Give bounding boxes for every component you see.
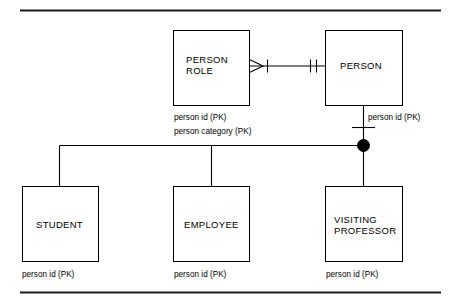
entity-visiting-professor-attribute-1: person id (PK) xyxy=(326,270,379,279)
entity-employee[interactable]: EMPLOYEE person id (PK) xyxy=(174,187,250,280)
entity-person-attribute-1: person id (PK) xyxy=(368,113,421,122)
entity-person-role-label-line1: PERSON xyxy=(186,54,228,65)
entity-employee-attribute-1: person id (PK) xyxy=(174,270,227,279)
entity-person-label: PERSON xyxy=(340,60,382,71)
relationship-person-role-to-person[interactable] xyxy=(250,60,326,73)
er-diagram-canvas: PERSON ROLE person id (PK) person catego… xyxy=(0,0,458,301)
entity-person-role[interactable]: PERSON ROLE person id (PK) person catego… xyxy=(174,31,252,137)
entity-person-role-label-line2: ROLE xyxy=(186,65,213,76)
entity-visiting-professor-label-line2: PROFESSOR xyxy=(334,225,396,236)
entity-student-attribute-1: person id (PK) xyxy=(22,270,75,279)
entity-person-role-attribute-1: person id (PK) xyxy=(174,113,227,122)
entity-visiting-professor[interactable]: VISITING PROFESSOR person id (PK) xyxy=(326,187,403,280)
er-diagram-svg: PERSON ROLE person id (PK) person catego… xyxy=(0,0,458,301)
entity-visiting-professor-label-line1: VISITING xyxy=(334,214,377,225)
entity-student-label: STUDENT xyxy=(36,219,83,230)
entity-student[interactable]: STUDENT person id (PK) xyxy=(22,187,99,280)
entity-person-role-attribute-2: person category (PK) xyxy=(174,127,252,136)
entity-person[interactable]: PERSON person id (PK) xyxy=(326,31,421,123)
entity-employee-label: EMPLOYEE xyxy=(184,219,239,230)
